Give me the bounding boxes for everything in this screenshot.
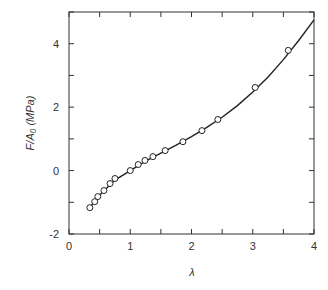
x-tick-label: 3 (250, 240, 256, 252)
data-point (150, 154, 156, 160)
data-point (107, 181, 113, 187)
y-tick-label: 0 (53, 165, 59, 177)
y-axis-label: F/A₀ (MPa) (24, 95, 36, 150)
y-tick-label: 2 (53, 101, 59, 113)
data-point (112, 176, 118, 182)
x-tick-label: 4 (311, 240, 317, 252)
data-point (101, 188, 107, 194)
y-tick-label: -2 (49, 228, 59, 240)
y-tick-label: 4 (53, 38, 59, 50)
data-point (285, 47, 291, 53)
fit-curve (90, 20, 314, 208)
ticks (69, 12, 314, 234)
x-axis-label: λ (188, 266, 194, 278)
data-point (199, 128, 205, 134)
x-tick-label: 1 (127, 240, 133, 252)
data-point (252, 84, 258, 90)
chart: 01234-2024 λ F/A₀ (MPa) (0, 0, 328, 290)
data-point (87, 205, 93, 211)
data-point (127, 168, 133, 174)
data-point (215, 117, 221, 123)
x-tick-label: 0 (66, 240, 72, 252)
x-tick-label: 2 (188, 240, 194, 252)
data-point (142, 157, 148, 163)
plot-frame (69, 12, 314, 234)
data-points (87, 47, 291, 210)
data-point (135, 162, 141, 168)
data-point (95, 194, 101, 200)
data-point (162, 148, 168, 154)
data-point (180, 139, 186, 145)
